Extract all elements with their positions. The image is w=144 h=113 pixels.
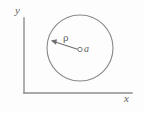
x-axis-label: x bbox=[124, 93, 129, 104]
geometry-figure: y x ρ a bbox=[0, 0, 144, 113]
center-point-marker bbox=[78, 47, 82, 51]
radius-arrow-head bbox=[51, 39, 57, 45]
center-label-a: a bbox=[84, 44, 89, 54]
radius-label-rho: ρ bbox=[63, 32, 69, 43]
y-axis-label: y bbox=[15, 5, 20, 16]
figure-canvas bbox=[0, 0, 144, 113]
